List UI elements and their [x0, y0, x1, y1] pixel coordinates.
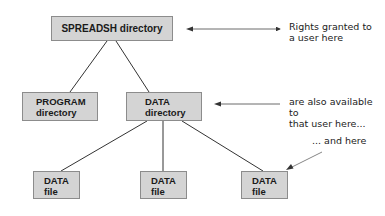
- arrowhead-and-here: [286, 164, 294, 170]
- data-file-node-2: DATA file: [140, 171, 187, 199]
- data-dir-line2: directory: [145, 107, 201, 118]
- and-here-text: ... and here: [312, 135, 366, 146]
- available-line2: that user here...: [289, 118, 385, 129]
- data-file-node-1: DATA file: [33, 171, 80, 199]
- data-file-node-3: DATA file: [241, 171, 288, 199]
- program-line1: PROGRAM: [36, 96, 97, 107]
- rights-line1: Rights granted to: [289, 21, 372, 32]
- edge-data-file3: [182, 121, 263, 171]
- edge-spreadsh-program: [70, 41, 107, 92]
- file3-line2: file: [252, 186, 287, 197]
- file2-line1: DATA: [151, 175, 186, 186]
- spreadsh-label: SPREADSH directory: [52, 17, 172, 40]
- rights-line2: a user here: [289, 32, 372, 43]
- arrowhead-available: [214, 102, 221, 107]
- annotation-available: are also available to that user here...: [289, 96, 385, 129]
- program-line2: directory: [36, 107, 97, 118]
- program-directory-node: PROGRAM directory: [22, 92, 98, 121]
- available-line1: are also available to: [289, 96, 385, 118]
- file1-line2: file: [44, 186, 79, 197]
- arrowhead-rights: [186, 27, 193, 32]
- arrow-and-here: [290, 152, 322, 168]
- annotation-rights: Rights granted to a user here: [289, 21, 372, 43]
- edge-data-file1: [61, 121, 147, 171]
- file2-line2: file: [151, 186, 186, 197]
- data-directory-node: DATA directory: [126, 92, 202, 121]
- data-dir-line1: DATA: [145, 96, 201, 107]
- file1-line1: DATA: [44, 175, 79, 186]
- annotation-and-here: ... and here: [312, 135, 366, 146]
- file3-line1: DATA: [252, 175, 287, 186]
- edge-spreadsh-data: [116, 41, 149, 92]
- spreadsh-directory-node: SPREADSH directory: [51, 16, 173, 41]
